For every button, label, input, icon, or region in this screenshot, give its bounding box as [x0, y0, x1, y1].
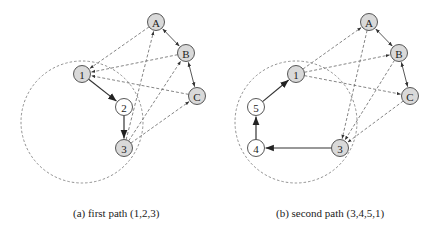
node-label: B [182, 48, 189, 60]
node-label: 3 [337, 143, 343, 155]
node-4: 4 [248, 140, 265, 157]
node-1: 1 [288, 66, 305, 83]
path-edge-1-2 [89, 79, 117, 101]
node-C: C [189, 88, 206, 105]
node-1: 1 [74, 66, 91, 83]
node-label: 4 [253, 143, 259, 155]
dashed-edge-1-C [304, 76, 400, 95]
dashed-edge-A-3 [342, 30, 367, 138]
node-label: 1 [293, 69, 299, 81]
bidirectional-edge-B-C [188, 62, 194, 87]
diagram-canvas: ABC123 ABC1543 [0, 0, 439, 233]
panel-b-graph: ABC1543 [235, 14, 419, 184]
bidirectional-edge-A-B [163, 29, 180, 46]
node-label: B [395, 48, 402, 60]
dashed-edge-3-B [129, 61, 181, 141]
bidirectional-edge-B-C [401, 62, 407, 87]
node-label: A [365, 17, 373, 29]
dashed-edge-3-C [131, 102, 189, 144]
node-A: A [148, 14, 165, 31]
panel-a-graph: ABC123 [21, 14, 206, 184]
caption-b: (b) second path (3,4,5,1) [276, 207, 384, 219]
node-label: C [406, 91, 413, 103]
dashed-edge-B-3 [345, 60, 395, 140]
bidirectional-edge-A-B [376, 29, 393, 46]
dashed-edge-B-1 [91, 55, 177, 72]
node-2: 2 [116, 99, 133, 116]
node-label: 1 [79, 69, 85, 81]
path-edge-5-1 [263, 80, 289, 102]
node-label: C [193, 91, 200, 103]
node-A: A [361, 14, 378, 31]
node-label: 5 [253, 102, 259, 114]
node-C: C [402, 88, 419, 105]
dashed-edge-1-A [303, 28, 361, 70]
node-label: 3 [121, 143, 127, 155]
node-5: 5 [248, 99, 265, 116]
dashed-edge-A-1 [90, 27, 149, 69]
dashed-edge-1-B [304, 55, 389, 72]
node-label: 2 [121, 102, 127, 114]
caption-a: (a) first path (1,2,3) [73, 207, 159, 219]
node-3: 3 [332, 140, 349, 157]
node-label: A [152, 17, 160, 29]
node-B: B [391, 45, 408, 62]
node-3: 3 [116, 140, 133, 157]
node-B: B [178, 45, 195, 62]
